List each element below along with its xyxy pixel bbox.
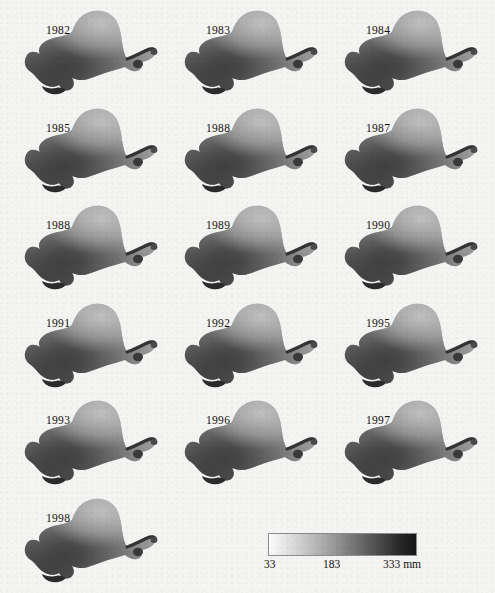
map-shape — [162, 392, 327, 490]
panel-year-label: 1990 — [366, 219, 390, 231]
panel-year-label: 1996 — [206, 414, 230, 426]
map-panel: 1988 — [2, 197, 167, 295]
map-body — [25, 206, 158, 290]
map-shape — [2, 197, 167, 295]
map-panel: 1985 — [2, 100, 167, 198]
map-panel: 1992 — [162, 295, 327, 393]
map-panel: 1997 — [322, 392, 487, 490]
panel-year-label: 1991 — [46, 317, 70, 329]
panel-year-label: 1983 — [206, 24, 230, 36]
legend-min-label: 33 — [264, 558, 276, 570]
map-body — [25, 108, 158, 192]
legend: 33 183 333 mm — [255, 528, 485, 578]
map-body — [185, 401, 318, 485]
map-body — [345, 206, 478, 290]
panel-year-label: 1987 — [366, 122, 390, 134]
map-shape — [322, 197, 487, 295]
map-panel: 1991 — [2, 295, 167, 393]
map-panel: 1984 — [322, 2, 487, 100]
map-shape — [162, 2, 327, 100]
legend-gradient-bar — [268, 533, 417, 556]
map-panel: 1996 — [162, 392, 327, 490]
map-body — [345, 108, 478, 192]
map-body — [185, 11, 318, 95]
panel-year-label: 1995 — [366, 317, 390, 329]
panel-year-label: 1985 — [46, 122, 70, 134]
panel-year-label: 1992 — [206, 317, 230, 329]
legend-mid-label: 183 — [323, 558, 340, 570]
map-body — [185, 108, 318, 192]
map-shape — [2, 100, 167, 198]
map-shape — [162, 295, 327, 393]
map-body — [345, 11, 478, 95]
map-shape — [322, 100, 487, 198]
map-panel: 1989 — [162, 197, 327, 295]
panel-year-label: 1997 — [366, 414, 390, 426]
map-shape — [322, 392, 487, 490]
map-body — [345, 401, 478, 485]
map-body — [185, 303, 318, 387]
map-shape — [322, 295, 487, 393]
map-shape — [2, 2, 167, 100]
panel-year-label: 1989 — [206, 219, 230, 231]
panel-year-label: 1993 — [46, 414, 70, 426]
panel-year-label: 1988 — [206, 122, 230, 134]
map-panel: 1982 — [2, 2, 167, 100]
map-panel: 1988 — [162, 100, 327, 198]
map-panel: 1987 — [322, 100, 487, 198]
map-body — [345, 303, 478, 387]
map-shape — [162, 197, 327, 295]
map-shape — [322, 2, 487, 100]
panel-year-label: 1982 — [46, 24, 70, 36]
map-body — [25, 498, 158, 582]
legend-max-label: 333 mm — [383, 558, 421, 570]
map-panel: 1990 — [322, 197, 487, 295]
map-shape — [2, 490, 167, 588]
map-body — [25, 303, 158, 387]
map-body — [25, 11, 158, 95]
figure-sheet: 1982198319841985198819871988198919901991… — [0, 0, 495, 593]
panel-year-label: 1998 — [46, 512, 70, 524]
map-body — [185, 206, 318, 290]
map-body — [25, 401, 158, 485]
map-shape — [162, 100, 327, 198]
map-panel: 1983 — [162, 2, 327, 100]
panel-year-label: 1988 — [46, 219, 70, 231]
map-panel: 1993 — [2, 392, 167, 490]
map-panel: 1998 — [2, 490, 167, 588]
map-panel: 1995 — [322, 295, 487, 393]
panel-year-label: 1984 — [366, 24, 390, 36]
map-shape — [2, 392, 167, 490]
map-shape — [2, 295, 167, 393]
